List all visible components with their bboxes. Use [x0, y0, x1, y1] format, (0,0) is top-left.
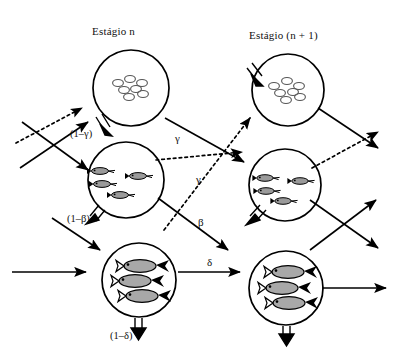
circle-larvae-right: [249, 149, 321, 221]
arrow-adults-out-right: [279, 326, 294, 346]
solid-flow-arrows: [12, 108, 386, 288]
label-one-minus-beta: (1–β): [67, 213, 90, 224]
eggs-cluster-icon-left: [113, 76, 149, 101]
header-stage-n-plus-1: Estágio (n + 1): [249, 29, 318, 41]
label-one-minus-delta: (1–δ): [110, 330, 132, 341]
eggs-cluster-icon-right: [269, 78, 306, 104]
label-gamma-upper: γ: [175, 132, 180, 144]
label-gamma-lower: γ: [196, 173, 201, 185]
arrow-larvae-to-adults-right: [246, 205, 266, 225]
dotted-flow-arrows: [16, 108, 378, 230]
label-beta: β: [198, 216, 204, 228]
arrow-eggs-to-larvae-left: [96, 114, 112, 136]
arrow-adults-out-left: [131, 318, 146, 340]
large-fish-cluster-icon-left: [111, 260, 171, 303]
stage-transition-arrows: [86, 63, 294, 346]
circle-larvae-left: [88, 142, 164, 218]
diagram-canvas: Estágio n Estágio (n + 1) (1–γ) (1–β) (1…: [0, 0, 395, 358]
label-one-minus-gamma: (1–γ): [70, 128, 92, 139]
small-fish-cluster-icon-right: [252, 175, 314, 205]
label-delta: δ: [207, 256, 212, 268]
arrow-dotted-outflow-right: [312, 132, 378, 168]
small-fish-cluster-icon-left: [87, 168, 153, 199]
arrow-outflow-eggs-right: [318, 108, 378, 148]
header-stage-n: Estágio n: [92, 25, 135, 37]
large-fish-cluster-icon-right: [258, 266, 318, 310]
